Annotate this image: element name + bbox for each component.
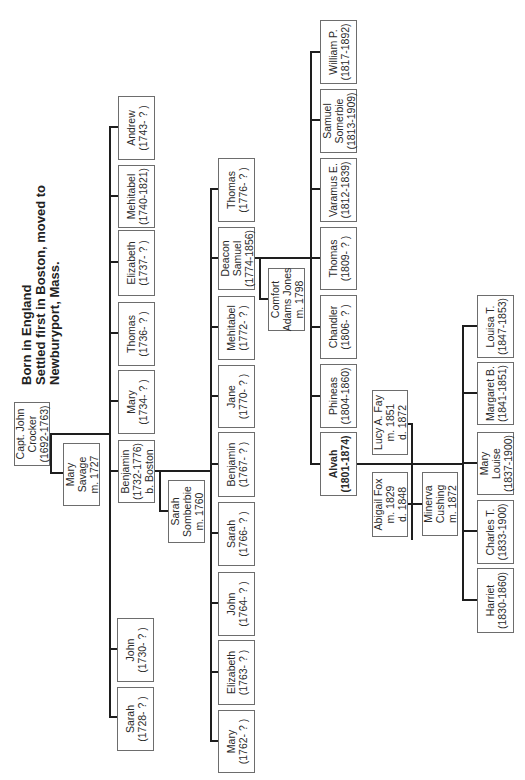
person-box-jane-1770: Jane (1770- ? ) bbox=[218, 365, 255, 428]
connector bbox=[109, 195, 118, 197]
connector bbox=[210, 395, 218, 397]
connector bbox=[411, 503, 422, 505]
person-box-mary-1734: Mary (1734- ? ) bbox=[118, 370, 155, 434]
spouse-box-mary-savage: Mary Savage m. 1727 bbox=[63, 443, 100, 506]
person-dates: (1763- ? ) bbox=[237, 650, 249, 696]
connector bbox=[50, 434, 52, 474]
person-box-andrew-1743: Andrew (1743- ? ) bbox=[118, 96, 155, 160]
person-name: Benjamin bbox=[225, 443, 237, 487]
person-box-samuel-somerbie-1813: Samuel Somerbie (1813-1909) bbox=[320, 89, 357, 153]
person-dates: (1692-1763) bbox=[38, 405, 50, 462]
person-dates: (1804-1860) bbox=[339, 367, 351, 424]
person-name: Benjamin bbox=[119, 450, 131, 494]
marriage-date: m. 1798 bbox=[293, 281, 305, 319]
person-dates: (1817-1892) bbox=[339, 23, 351, 80]
marriage-date: m. 1727 bbox=[88, 456, 100, 494]
person-name: John bbox=[124, 639, 136, 662]
connector bbox=[462, 599, 477, 601]
title-line: Born in England bbox=[20, 145, 34, 385]
title-line: Settled first in Boston, moved to bbox=[34, 145, 48, 385]
person-dates: (1774-1856) bbox=[243, 230, 255, 287]
connector bbox=[109, 126, 118, 128]
connector bbox=[462, 325, 477, 327]
person-name: Charles T. bbox=[484, 508, 496, 555]
person-name: Sarah bbox=[169, 497, 181, 525]
person-name: Mehitabel bbox=[225, 305, 237, 351]
person-box-thomas-1736: Thomas (1736- ? ) bbox=[118, 302, 155, 366]
connector bbox=[210, 463, 218, 465]
person-box-louisa-1847: Louisa T. (1847-1853) bbox=[477, 295, 514, 358]
person-dates: (1734- ? ) bbox=[137, 379, 149, 425]
person-box-phineas-1804: Phineas (1804-1860) bbox=[320, 364, 357, 428]
title-line: Newburyport, Mass. bbox=[48, 145, 62, 385]
person-box-varamus-1812: Varamus E. (1812-1839) bbox=[320, 158, 357, 222]
connector bbox=[310, 119, 320, 121]
person-dates: (1730- ? ) bbox=[136, 627, 148, 673]
person-box-mehitabel-1772: Mehitabel (1772- ? ) bbox=[218, 296, 255, 360]
person-dates: (1837-1900) bbox=[502, 435, 514, 492]
connector bbox=[310, 463, 320, 465]
connector bbox=[408, 423, 413, 425]
person-name: Elizabeth bbox=[225, 651, 237, 694]
diagram-title: Born in England Settled first in Boston,… bbox=[20, 145, 62, 385]
person-dates: (1833-1900) bbox=[496, 503, 508, 560]
person-box-john-1764: John (1764- ? ) bbox=[218, 572, 255, 636]
person-box-elizabeth-1737: Elizabeth (1737- ? ) bbox=[118, 230, 155, 296]
spouse-box-minerva-cushing: Minerva Cushing m. 1872 bbox=[422, 472, 458, 536]
person-name: Louise bbox=[490, 448, 502, 479]
connector bbox=[411, 463, 413, 505]
connector bbox=[109, 332, 118, 334]
person-title: Deacon bbox=[219, 240, 231, 276]
person-name: Chandler bbox=[327, 306, 339, 349]
person-name: Thomas bbox=[125, 315, 137, 353]
marriage-date: m. 1872 bbox=[446, 485, 458, 523]
person-dates: (1841-1851) bbox=[496, 365, 508, 422]
person-box-thomas-1776: Thomas (1776- ? ) bbox=[218, 158, 255, 222]
marriage-date: m. 1851 bbox=[384, 404, 396, 442]
person-name: Capt. John bbox=[14, 409, 26, 460]
person-dates: (1764- ? ) bbox=[237, 581, 249, 627]
person-dates: (1743- ? ) bbox=[137, 105, 149, 151]
person-name: Lucy A. Fay bbox=[372, 395, 384, 450]
person-box-thomas-1809: Thomas (1809- ? ) bbox=[320, 227, 357, 290]
connector bbox=[155, 470, 211, 472]
spouse-box-abigail-fox: Abigail Fox m. 1829 d. 1848 bbox=[372, 472, 408, 537]
person-dates: (1762- ? ) bbox=[237, 719, 249, 765]
person-name: Thomas bbox=[327, 240, 339, 278]
person-box-sarah-1728: Sarah (1728- ? ) bbox=[117, 687, 154, 751]
connector bbox=[210, 532, 218, 534]
connector bbox=[310, 326, 320, 328]
connector bbox=[462, 530, 477, 532]
person-name: Mehitabel bbox=[125, 174, 137, 220]
person-dates: (1801-1874) bbox=[339, 435, 351, 492]
person-box-mary-louise-1837: Mary Louise (1837-1900) bbox=[477, 432, 514, 495]
person-name: Mary bbox=[64, 463, 76, 486]
connector bbox=[462, 392, 477, 394]
person-dates: (1737- ? ) bbox=[137, 240, 149, 286]
person-dates: (1813-1909) bbox=[345, 92, 357, 149]
person-dates: (1776- ? ) bbox=[237, 167, 249, 213]
person-box-sarah-1766: Sarah (1766- ? ) bbox=[218, 502, 255, 566]
person-name: Andrew bbox=[125, 110, 137, 146]
person-name: Somberbie bbox=[181, 486, 193, 537]
marriage-date: m. 1760 bbox=[193, 493, 205, 531]
person-box-mehitabel-1740: Mehitabel (1740-1821) bbox=[118, 165, 155, 228]
connector bbox=[210, 740, 218, 742]
connector bbox=[159, 510, 168, 512]
connector bbox=[310, 188, 320, 190]
connector bbox=[210, 188, 218, 190]
person-name: Mary bbox=[478, 452, 490, 475]
person-dates: (1772- ? ) bbox=[237, 305, 249, 351]
connector bbox=[50, 433, 110, 435]
person-box-benjamin-1767: Benjamin (1767- ? ) bbox=[218, 432, 255, 497]
person-name: Sarah bbox=[124, 705, 136, 733]
connector bbox=[259, 298, 268, 300]
person-dates: (1847-1853) bbox=[496, 298, 508, 355]
connector bbox=[259, 257, 261, 300]
spouse-box-sarah-somberbie: Sarah Somberbie m. 1760 bbox=[168, 480, 205, 543]
person-box-benjamin-1732: Benjamin (1732-1776) b. Boston bbox=[118, 440, 155, 503]
person-dates: (1830-1860) bbox=[496, 572, 508, 629]
person-box-john-crocker: Capt. John Crocker (1692-1763) bbox=[14, 402, 50, 466]
connector bbox=[310, 395, 320, 397]
death-date: d. 1872 bbox=[396, 405, 408, 440]
